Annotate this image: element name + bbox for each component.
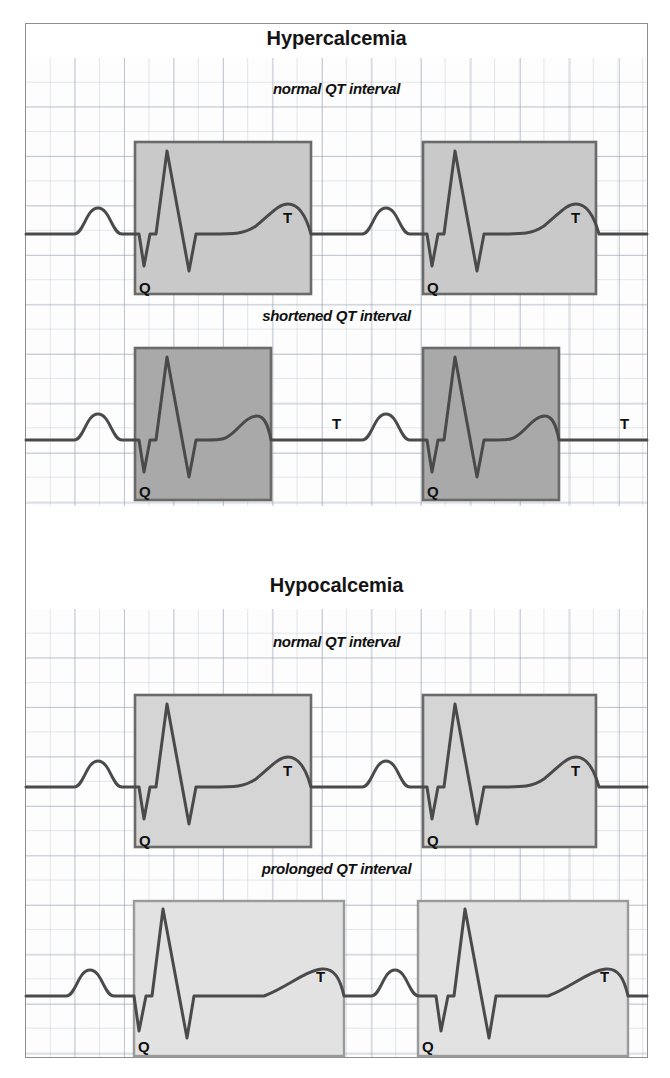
t-label-hypo-normal-beat2: T (571, 763, 580, 778)
t-label-hyper-shortened-beat1: T (332, 416, 341, 431)
t-label-hypo-prolonged-beat1: T (316, 969, 325, 984)
grid-panel-hypercalcemia: normal QT interval Q Q T T shortened QT … (26, 58, 647, 506)
trace-hyper-normal (26, 106, 647, 316)
qt-box-hyper-shortened-beat2 (423, 348, 559, 500)
t-label-hypo-prolonged-beat2: T (600, 969, 609, 984)
t-label-hyper-normal-beat1: T (283, 210, 292, 225)
trace-hypo-prolonged (26, 883, 647, 1078)
caption-hyper-shortened: shortened QT interval (26, 307, 647, 324)
caption-hypo-prolonged: prolonged QT interval (26, 860, 647, 877)
caption-hyper-normal: normal QT interval (26, 80, 647, 97)
q-label-hypo-prolonged-beat1: Q (138, 1039, 150, 1054)
figure-frame: Hypercalcemia normal QT interval Q Q T T… (25, 23, 648, 1058)
qt-box-hypo-prolonged-beat2 (418, 901, 628, 1056)
q-label-hyper-normal-beat1: Q (139, 280, 151, 295)
section-title-hypercalcemia: Hypercalcemia (26, 27, 647, 50)
q-label-hyper-normal-beat2: Q (427, 280, 439, 295)
ecg-figure: Hypercalcemia normal QT interval Q Q T T… (0, 0, 670, 1078)
q-label-hypo-prolonged-beat2: Q (422, 1039, 434, 1054)
q-label-hypo-normal-beat1: Q (139, 833, 151, 848)
q-label-hyper-shortened-beat2: Q (427, 484, 439, 499)
q-label-hyper-shortened-beat1: Q (139, 484, 151, 499)
grid-panel-hypocalcemia: normal QT interval Q Q T T prolonged QT … (26, 609, 647, 1057)
t-label-hypo-normal-beat1: T (283, 763, 292, 778)
caption-hypo-normal: normal QT interval (26, 633, 647, 650)
t-label-hyper-shortened-beat2: T (620, 416, 629, 431)
qt-box-hyper-shortened-beat1 (135, 348, 271, 500)
section-title-hypocalcemia: Hypocalcemia (26, 574, 647, 597)
t-label-hyper-normal-beat2: T (571, 210, 580, 225)
q-label-hypo-normal-beat2: Q (427, 833, 439, 848)
trace-hypo-normal (26, 659, 647, 869)
